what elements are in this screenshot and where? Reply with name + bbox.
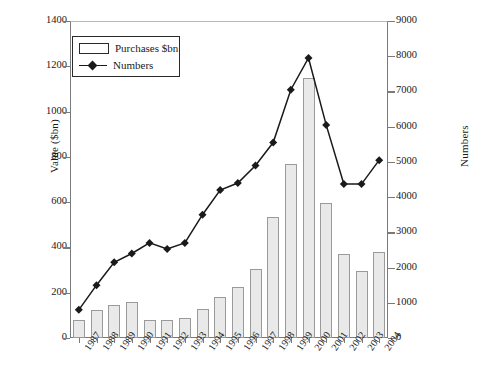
data-point-marker [340, 180, 348, 188]
x-axis-tick-mark [220, 338, 221, 343]
y-axis-right-title: Numbers [458, 86, 470, 206]
chart-legend: Purchases $bn Numbers [72, 36, 180, 77]
y-axis-right-tick-mark [388, 91, 395, 92]
x-axis-tick-mark [185, 338, 186, 343]
y-axis-right-tick-mark [388, 268, 395, 269]
data-point-marker [305, 54, 313, 62]
y-axis-left-title: Value ($bn) [48, 86, 60, 206]
line-path [79, 58, 379, 310]
y-axis-right-tick-label: 2000 [396, 262, 417, 273]
x-axis-tick-mark [167, 338, 168, 343]
y-axis-left-tick-mark [63, 293, 70, 294]
y-axis-left-tick-mark [63, 202, 70, 203]
x-axis-tick-mark [344, 338, 345, 343]
chart-container: Value ($bn) Numbers 02004006008001000120… [0, 0, 480, 392]
bar-outline-swatch-icon [79, 43, 109, 54]
data-point-marker [287, 86, 295, 94]
line-diamond-swatch-icon [79, 60, 107, 70]
x-axis-tick-mark [273, 338, 274, 343]
x-axis-tick-mark [256, 338, 257, 343]
data-point-marker [146, 239, 154, 247]
y-axis-right-tick-label: 7000 [396, 85, 417, 96]
data-point-marker [163, 245, 171, 253]
y-axis-right-tick-mark [388, 197, 395, 198]
x-axis-tick-mark [97, 338, 98, 343]
legend-item-purchases: Purchases $bn [79, 40, 178, 56]
x-axis-tick-mark [79, 338, 80, 343]
y-axis-left-tick-mark [63, 21, 70, 22]
x-axis-tick-mark [291, 338, 292, 343]
y-axis-left-tick-mark [63, 66, 70, 67]
y-axis-right-tick-mark [388, 303, 395, 304]
y-axis-right-tick-label: 4000 [396, 191, 417, 202]
y-axis-left-tick-mark [63, 157, 70, 158]
y-axis-right-tick-label: 9000 [396, 15, 417, 26]
x-axis-tick-mark [379, 338, 380, 343]
x-axis-tick-mark [362, 338, 363, 343]
y-axis-left-tick-mark [63, 338, 70, 339]
x-axis-tick-mark [326, 338, 327, 343]
y-axis-right-tick-mark [388, 162, 395, 163]
legend-item-numbers: Numbers [79, 57, 153, 73]
y-axis-left-tick-mark [63, 247, 70, 248]
y-axis-right-tick-mark [388, 56, 395, 57]
x-axis-tick-mark [114, 338, 115, 343]
y-axis-right-tick-label: 8000 [396, 50, 417, 61]
x-axis-tick-mark [203, 338, 204, 343]
data-point-marker [322, 121, 330, 129]
legend-label-purchases: Purchases $bn [115, 43, 178, 54]
x-axis-tick-mark [309, 338, 310, 343]
y-axis-left-tick-mark [63, 112, 70, 113]
legend-label-numbers: Numbers [113, 60, 153, 71]
y-axis-right-tick-label: 5000 [396, 156, 417, 167]
y-axis-right-tick-label: 1000 [396, 297, 417, 308]
y-axis-right-tick-mark [388, 127, 395, 128]
x-axis-tick-mark [150, 338, 151, 343]
data-point-marker [181, 239, 189, 247]
x-axis-tick-mark [132, 338, 133, 343]
x-axis-tick-mark [238, 338, 239, 343]
y-axis-right-tick-mark [388, 232, 395, 233]
y-axis-right-tick-label: 6000 [396, 121, 417, 132]
data-point-marker [128, 249, 136, 257]
y-axis-right-tick-mark [388, 21, 395, 22]
y-axis-right-tick-label: 3000 [396, 226, 417, 237]
